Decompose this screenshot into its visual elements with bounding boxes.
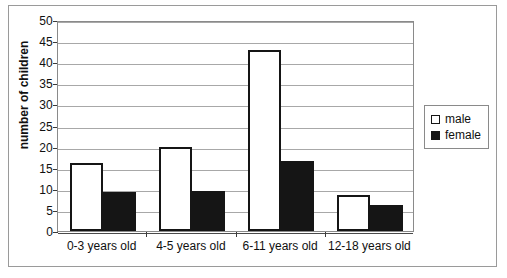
y-tick-label-35: 35: [5, 78, 53, 90]
gridline-35: [58, 85, 413, 86]
legend-item-male: male: [431, 111, 481, 127]
y-tick-label-40: 40: [5, 57, 53, 69]
y-tick-label-20: 20: [5, 142, 53, 154]
y-tick-label-50: 50: [5, 15, 53, 27]
gridline-15: [58, 170, 413, 171]
bar-male-2: [159, 147, 192, 231]
x-tick-label-3: 6-11 years old: [236, 239, 325, 253]
bar-female-3: [281, 161, 314, 231]
x-tick-label-1: 0-3 years old: [57, 239, 146, 253]
legend-label-female: female: [445, 129, 481, 142]
bar-female-4: [370, 205, 403, 231]
x-tick-mark-2: [236, 232, 237, 237]
chart-legend: male female: [424, 105, 489, 149]
y-axis-ticks: 05101520253035404550: [0, 0, 53, 278]
x-tick-mark-1: [146, 232, 147, 237]
bar-male-3: [248, 50, 281, 231]
bar-male-1: [70, 163, 103, 231]
gridline-25: [58, 128, 413, 129]
legend-label-male: male: [445, 113, 471, 126]
plot-area: [57, 21, 414, 232]
x-tick-label-2: 4-5 years old: [146, 239, 235, 253]
y-tick-label-15: 15: [5, 163, 53, 175]
legend-swatch-female-icon: [431, 131, 440, 140]
gridline-50: [58, 22, 413, 23]
gridline-20: [58, 149, 413, 150]
y-tick-label-45: 45: [5, 36, 53, 48]
y-tick-label-5: 5: [5, 205, 53, 217]
y-tick-label-0: 0: [5, 226, 53, 238]
y-tick-label-25: 25: [5, 121, 53, 133]
y-tick-label-10: 10: [5, 184, 53, 196]
gridline-45: [58, 43, 413, 44]
y-tick-label-30: 30: [5, 99, 53, 111]
x-axis-labels: 0-3 years old4-5 years old6-11 years old…: [57, 239, 414, 259]
bar-chart: number of children 05101520253035404550 …: [0, 0, 507, 278]
bar-female-2: [192, 191, 225, 231]
bar-female-1: [103, 192, 136, 231]
x-tick-mark-3: [325, 232, 326, 237]
bar-male-4: [337, 195, 370, 231]
gridline-40: [58, 64, 413, 65]
x-tick-label-4: 12-18 years old: [325, 239, 414, 253]
gridline-30: [58, 106, 413, 107]
legend-item-female: female: [431, 127, 481, 143]
legend-swatch-male-icon: [431, 115, 440, 124]
